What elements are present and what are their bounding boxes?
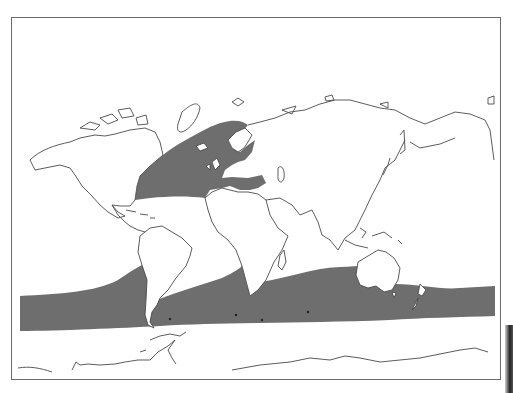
- canadian-archipelago: [80, 108, 148, 130]
- greenland: [177, 104, 200, 132]
- antarctica-coast-east: [232, 348, 488, 370]
- caribbean-islands: [126, 210, 155, 218]
- caspian-sea: [278, 167, 284, 182]
- antarctica-coast-west: [18, 340, 176, 372]
- world-map: [0, 0, 513, 393]
- central-america: [112, 205, 145, 232]
- asia-coast: [266, 140, 405, 250]
- arctic-islands: [232, 95, 494, 114]
- page-edge-shadow: [505, 325, 513, 393]
- north-america: [30, 128, 163, 218]
- japan-kamchatka: [383, 130, 455, 175]
- australia: [356, 250, 400, 292]
